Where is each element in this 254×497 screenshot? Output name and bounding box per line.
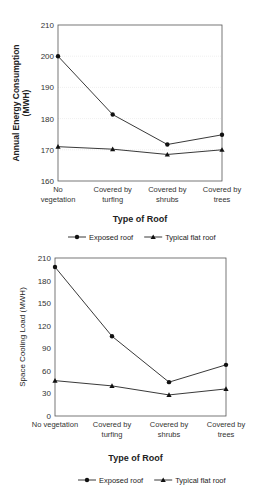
legend-label: Typical flat roof <box>175 476 226 485</box>
y-tick-label: 60 <box>42 367 51 376</box>
x-axis-title: Type of Roof <box>108 453 163 463</box>
y-tick-label: 90 <box>42 344 51 353</box>
x-category-label: trees <box>218 430 235 439</box>
y-tick-label: 190 <box>41 83 55 92</box>
series-exposed-roof <box>53 265 228 385</box>
legend: Exposed roofTypical flat roof <box>78 476 227 485</box>
y-tick-label: 170 <box>41 146 55 155</box>
x-category-label: trees <box>214 195 231 204</box>
legend: Exposed roofTypical flat roof <box>68 233 217 242</box>
space-cooling-chart: 0306090120150180210No vegetationCovered … <box>0 250 254 497</box>
y-tick-label: 150 <box>38 299 52 308</box>
x-category-label: turfing <box>102 430 123 439</box>
y-axis-title: Annual Energy Consumption <box>11 44 21 161</box>
x-category-label: Covered by <box>93 185 132 194</box>
x-category-label: No <box>53 185 63 194</box>
plot-frame <box>58 25 222 181</box>
series-exposed-roof <box>56 54 224 147</box>
y-tick-label: 210 <box>41 21 55 30</box>
data-point-circle-marker <box>110 112 114 116</box>
legend-label: Exposed roof <box>99 476 144 485</box>
legend-circle-marker <box>75 235 79 239</box>
data-point-circle-marker <box>224 363 228 367</box>
x-category-label: Covered by <box>150 420 189 429</box>
data-point-triangle-marker <box>223 386 228 391</box>
legend-circle-marker <box>85 478 89 482</box>
data-point-triangle-marker <box>52 378 57 383</box>
y-tick-label: 30 <box>42 389 51 398</box>
y-tick-label: 180 <box>41 115 55 124</box>
annual-energy-chart: 160170180190200210NovegetationCovered by… <box>0 0 254 250</box>
data-point-circle-marker <box>110 334 114 338</box>
plot-frame <box>55 258 226 416</box>
y-axis-title-unit: (MWH) <box>21 89 31 116</box>
y-tick-label: 180 <box>38 277 52 286</box>
y-tick-label: 200 <box>41 52 55 61</box>
data-point-circle-marker <box>53 265 57 269</box>
y-axis-title: Space Cooling Load (MWH) <box>18 287 27 387</box>
x-category-label: Covered by <box>148 185 187 194</box>
y-tick-label: 120 <box>38 322 52 331</box>
series-typical-flat-roof <box>52 378 228 397</box>
x-category-label: No vegetation <box>32 420 78 429</box>
data-point-circle-marker <box>56 54 60 58</box>
x-category-label: shrubs <box>158 430 181 439</box>
x-category-label: Covered by <box>93 420 132 429</box>
data-point-circle-marker <box>167 380 171 384</box>
legend-label: Exposed roof <box>89 233 134 242</box>
x-category-label: shrubs <box>156 195 179 204</box>
legend-label: Typical flat roof <box>165 233 216 242</box>
x-category-label: turfing <box>102 195 123 204</box>
data-point-circle-marker <box>165 142 169 146</box>
x-category-label: Covered by <box>203 185 242 194</box>
x-category-label: vegetation <box>41 195 76 204</box>
y-tick-label: 210 <box>38 254 52 263</box>
data-point-circle-marker <box>220 133 224 137</box>
x-category-label: Covered by <box>207 420 246 429</box>
x-axis-title: Type of Roof <box>113 214 168 224</box>
series-typical-flat-roof <box>55 144 224 156</box>
